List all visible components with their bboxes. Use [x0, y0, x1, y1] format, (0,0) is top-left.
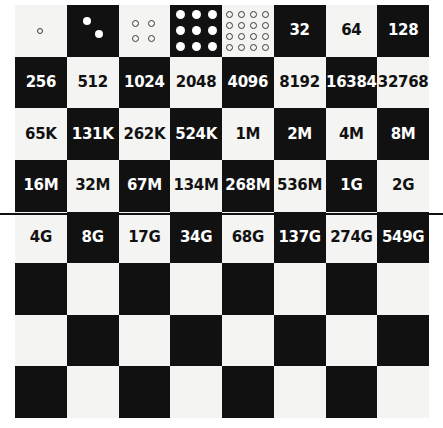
board-square-r6-c1[interactable]: [15, 263, 67, 315]
board-square-r5-c5[interactable]: 68G: [222, 212, 274, 264]
board-square-r1-c8[interactable]: 128: [377, 5, 429, 57]
board-square-r8-c8[interactable]: [377, 366, 429, 418]
board-square-r2-c6[interactable]: 8192: [274, 57, 326, 109]
square-value-label: 16384: [326, 75, 377, 90]
square-value-label: 8192: [279, 75, 320, 90]
board-square-r4-c4[interactable]: 134M: [170, 160, 222, 212]
square-value-label: 1G: [340, 178, 362, 193]
board-square-r5-c8[interactable]: 549G: [377, 212, 429, 264]
square-value-label: 1024: [124, 75, 165, 90]
square-value-label: 8G: [82, 230, 104, 245]
board-square-r1-c5[interactable]: [222, 5, 274, 57]
square-value-label: 64: [341, 23, 361, 38]
board-square-r8-c2[interactable]: [67, 366, 119, 418]
board-square-r6-c6[interactable]: [274, 263, 326, 315]
board-square-r8-c3[interactable]: [119, 366, 171, 418]
square-value-label: 268M: [225, 178, 270, 193]
board-square-r6-c2[interactable]: [67, 263, 119, 315]
board-square-r8-c7[interactable]: [326, 366, 378, 418]
board-square-r3-c8[interactable]: 8M: [377, 108, 429, 160]
square-value-label: 256: [26, 75, 56, 90]
square-value-label: 16M: [23, 178, 58, 193]
board-square-r1-c2[interactable]: [67, 5, 119, 57]
board-square-r8-c1[interactable]: [15, 366, 67, 418]
board-square-r6-c7[interactable]: [326, 263, 378, 315]
board-square-r3-c6[interactable]: 2M: [274, 108, 326, 160]
dot-icon: [132, 20, 139, 27]
board-square-r7-c3[interactable]: [119, 315, 171, 367]
board-square-r4-c1[interactable]: 16M: [15, 160, 67, 212]
board-square-r5-c4[interactable]: 34G: [170, 212, 222, 264]
square-value-label: 32M: [75, 178, 110, 193]
board-square-r4-c5[interactable]: 268M: [222, 160, 274, 212]
square-value-label: 262K: [124, 127, 166, 142]
horizontal-divider-rule: [0, 213, 443, 215]
board-square-r7-c5[interactable]: [222, 315, 274, 367]
board-square-r7-c2[interactable]: [67, 315, 119, 367]
board-square-r5-c1[interactable]: 4G: [15, 212, 67, 264]
board-square-r2-c4[interactable]: 2048: [170, 57, 222, 109]
board-square-r4-c8[interactable]: 2G: [377, 160, 429, 212]
board-square-r1-c6[interactable]: 32: [274, 5, 326, 57]
dot-icon: [148, 20, 155, 27]
square-value-label: 8M: [391, 127, 416, 142]
dot-cluster-1: [37, 28, 44, 34]
board-square-r4-c3[interactable]: 67M: [119, 160, 171, 212]
board-square-r1-c7[interactable]: 64: [326, 5, 378, 57]
board-square-r2-c8[interactable]: 32768: [377, 57, 429, 109]
board-square-r8-c4[interactable]: [170, 366, 222, 418]
square-value-label: 2G: [392, 178, 414, 193]
board-square-r2-c3[interactable]: 1024: [119, 57, 171, 109]
chessboard-grid: 3264128256512102420484096819216384327686…: [15, 5, 429, 418]
board-square-r4-c6[interactable]: 536M: [274, 160, 326, 212]
board-square-r3-c7[interactable]: 4M: [326, 108, 378, 160]
board-square-r1-c4[interactable]: [170, 5, 222, 57]
board-square-r5-c2[interactable]: 8G: [67, 212, 119, 264]
board-square-r3-c5[interactable]: 1M: [222, 108, 274, 160]
dot-icon: [262, 44, 269, 51]
board-square-r6-c8[interactable]: [377, 263, 429, 315]
board-square-r7-c1[interactable]: [15, 315, 67, 367]
dot-icon: [238, 44, 245, 51]
board-square-r2-c2[interactable]: 512: [67, 57, 119, 109]
dot-icon: [208, 26, 217, 35]
dot-icon: [192, 42, 201, 51]
board-square-r3-c1[interactable]: 65K: [15, 108, 67, 160]
dot-icon: [192, 26, 201, 35]
square-value-label: 2048: [176, 75, 217, 90]
board-square-r5-c3[interactable]: 17G: [119, 212, 171, 264]
board-square-r2-c1[interactable]: 256: [15, 57, 67, 109]
board-square-r4-c2[interactable]: 32M: [67, 160, 119, 212]
square-value-label: 68G: [232, 230, 264, 245]
board-square-r1-c1[interactable]: [15, 5, 67, 57]
dot-icon: [95, 30, 103, 38]
board-square-r6-c4[interactable]: [170, 263, 222, 315]
square-value-label: 128: [388, 23, 418, 38]
board-square-r6-c5[interactable]: [222, 263, 274, 315]
board-square-r8-c6[interactable]: [274, 366, 326, 418]
board-square-r2-c7[interactable]: 16384: [326, 57, 378, 109]
board-square-r4-c7[interactable]: 1G: [326, 160, 378, 212]
dot-icon: [132, 35, 139, 42]
square-value-label: 137G: [278, 230, 320, 245]
dot-icon: [226, 11, 233, 18]
board-square-r3-c3[interactable]: 262K: [119, 108, 171, 160]
board-square-r2-c5[interactable]: 4096: [222, 57, 274, 109]
dot-cluster-9: [176, 10, 217, 51]
board-square-r8-c5[interactable]: [222, 366, 274, 418]
dot-icon: [148, 35, 155, 42]
board-square-r7-c7[interactable]: [326, 315, 378, 367]
square-value-label: 32: [289, 23, 309, 38]
board-square-r7-c6[interactable]: [274, 315, 326, 367]
dot-icon: [176, 42, 185, 51]
board-square-r6-c3[interactable]: [119, 263, 171, 315]
board-square-r3-c2[interactable]: 131K: [67, 108, 119, 160]
board-square-r3-c4[interactable]: 524K: [170, 108, 222, 160]
board-square-r5-c7[interactable]: 274G: [326, 212, 378, 264]
board-square-r5-c6[interactable]: 137G: [274, 212, 326, 264]
figure-stage: 3264128256512102420484096819216384327686…: [0, 0, 443, 428]
board-square-r7-c8[interactable]: [377, 315, 429, 367]
board-square-r7-c4[interactable]: [170, 315, 222, 367]
dot-icon: [208, 10, 217, 19]
board-square-r1-c3[interactable]: [119, 5, 171, 57]
